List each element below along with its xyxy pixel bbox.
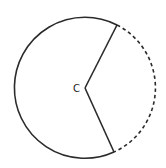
center-label: C [73, 83, 80, 94]
circle-diagram: C [0, 0, 166, 168]
radius-upper [85, 25, 117, 88]
minor-arc-dashed [114, 25, 155, 152]
radius-lower [85, 88, 114, 152]
major-arc [14, 17, 117, 158]
